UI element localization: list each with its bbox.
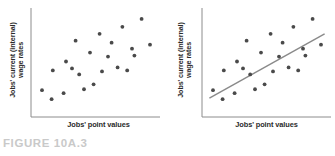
y-axis-label-right: Jobs' current (internal) wage rates — [170, 4, 200, 116]
data-point — [263, 82, 267, 86]
data-point — [133, 54, 137, 58]
scatter-panel-left: Jobs' current (internal) wage rates Jobs… — [0, 0, 167, 135]
data-point — [51, 69, 55, 73]
data-point — [74, 39, 78, 43]
data-point — [140, 17, 144, 21]
data-point — [50, 97, 54, 101]
data-point — [70, 67, 74, 71]
data-point — [92, 82, 96, 86]
data-point — [221, 97, 225, 101]
data-point — [121, 25, 125, 29]
data-point — [248, 72, 252, 76]
y-axis-label-left: Jobs' current (internal) wage rates — [2, 4, 32, 116]
data-point — [271, 70, 275, 74]
data-point — [106, 55, 110, 59]
data-point — [233, 91, 237, 95]
x-axis-label-left: Jobs' point values — [30, 120, 167, 129]
data-point — [319, 43, 323, 47]
data-point — [222, 69, 226, 73]
data-points-left — [40, 17, 152, 101]
regression-line — [209, 34, 324, 98]
data-point — [40, 88, 44, 92]
data-point — [82, 87, 86, 91]
data-point — [98, 32, 102, 36]
data-point — [253, 87, 257, 91]
data-point — [296, 69, 300, 73]
axes-left — [31, 8, 160, 117]
data-point — [311, 17, 315, 21]
data-point — [277, 55, 281, 59]
data-point — [148, 43, 152, 47]
data-point — [125, 69, 129, 73]
data-point — [110, 41, 114, 45]
chart-panels: Jobs' current (internal) wage rates Jobs… — [0, 0, 335, 135]
data-point — [64, 60, 68, 64]
data-point — [281, 41, 285, 45]
scatter-panel-right: Jobs' current (internal) wage rates Jobs… — [168, 0, 335, 135]
data-point — [211, 88, 215, 92]
data-point — [116, 66, 120, 70]
data-point — [287, 66, 291, 70]
data-point — [292, 25, 296, 29]
data-point — [304, 54, 308, 58]
trend-line-right — [209, 34, 324, 98]
figure-container: Jobs' current (internal) wage rates Jobs… — [0, 0, 335, 156]
data-point — [259, 51, 263, 55]
y-axis-label-line2: wage rates — [17, 22, 25, 98]
data-point — [245, 39, 249, 43]
y-axis-label-line2: wage rates — [185, 22, 193, 98]
x-axis-label-right: Jobs' point values — [198, 120, 335, 129]
data-point — [100, 70, 104, 74]
data-point — [88, 51, 92, 55]
data-point — [301, 47, 305, 51]
data-point — [62, 91, 66, 95]
data-point — [269, 32, 273, 36]
data-point — [241, 67, 245, 71]
data-point — [130, 47, 134, 51]
data-point — [77, 72, 81, 76]
axes-right — [202, 8, 331, 117]
figure-caption: FIGURE 10A.3 — [3, 137, 88, 149]
data-point — [235, 60, 239, 64]
